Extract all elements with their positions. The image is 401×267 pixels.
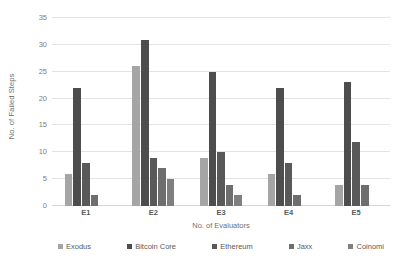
legend-swatch-icon [212,244,217,249]
bar-bitcoin-core-e5[interactable] [344,82,352,206]
bar-group-inner [268,18,310,206]
bar-group-e5 [322,18,390,206]
bar-group-inner [200,18,242,206]
bar-coinomi-e2[interactable] [167,179,175,206]
bar-exodus-e4[interactable] [268,174,276,206]
legend-label: Coinomi [356,242,384,251]
bar-chart: No. of Failed Steps 05101520253035 E1E2E… [0,0,401,267]
bar-group-inner [335,18,377,206]
legend-swatch-icon [58,244,63,249]
y-axis-title-text: No. of Failed Steps [8,73,17,139]
x-axis-tick-labels: E1E2E3E4E5 [52,208,390,222]
bar-group-inner [65,18,107,206]
bar-ethereum-e5[interactable] [352,142,360,206]
x-axis-tick-label-e5: E5 [322,208,390,222]
bar-group-e4 [255,18,323,206]
y-axis-tick-label: 10 [39,147,47,156]
x-axis-tick-label-e4: E4 [255,208,323,222]
x-axis-tick-label-e1: E1 [52,208,120,222]
y-axis-tick-label: 20 [39,93,47,102]
bar-jaxx-e5[interactable] [361,185,369,206]
y-axis-tick-label: 0 [43,201,47,210]
plot-area: 05101520253035 [52,18,390,206]
bar-ethereum-e2[interactable] [150,158,158,206]
y-axis-tick-label: 30 [39,39,47,48]
y-axis-tick-label: 5 [43,174,47,183]
bar-group-e1 [52,18,120,206]
bar-bitcoin-core-e2[interactable] [141,40,149,207]
bar-jaxx-e4[interactable] [293,195,301,206]
bar-ethereum-e4[interactable] [285,163,293,206]
x-axis-tick-label-e2: E2 [120,208,188,222]
x-axis-tick-label-e3: E3 [187,208,255,222]
bar-group-e3 [187,18,255,206]
legend-item-ethereum[interactable]: Ethereum [212,242,253,251]
bar-bitcoin-core-e4[interactable] [276,88,284,206]
bar-jaxx-e2[interactable] [158,168,166,206]
y-axis-tick-label: 25 [39,66,47,75]
bar-coinomi-e3[interactable] [234,195,242,206]
legend-swatch-icon [289,244,294,249]
legend-swatch-icon [348,244,353,249]
legend-label: Exodus [66,242,91,251]
legend-label: Ethereum [220,242,253,251]
y-axis-tick-label: 15 [39,120,47,129]
y-axis-title: No. of Failed Steps [0,0,24,212]
bar-exodus-e2[interactable] [132,66,140,206]
legend-label: Jaxx [297,242,312,251]
bar-exodus-e3[interactable] [200,158,208,206]
bar-bitcoin-core-e3[interactable] [209,72,217,206]
bar-exodus-e5[interactable] [335,185,343,206]
bar-jaxx-e1[interactable] [91,195,99,206]
legend-item-jaxx[interactable]: Jaxx [289,242,312,251]
bar-jaxx-e3[interactable] [226,185,234,206]
bar-ethereum-e3[interactable] [217,152,225,206]
legend-item-coinomi[interactable]: Coinomi [348,242,384,251]
y-axis-tick-label: 35 [39,13,47,22]
bar-ethereum-e1[interactable] [82,163,90,206]
chart-legend: ExodusBitcoin CoreEthereumJaxxCoinomi [52,242,390,251]
legend-swatch-icon [127,244,132,249]
bars-layer [52,18,390,206]
x-axis-title: No. of Evaluators [52,221,390,230]
bar-group-e2 [120,18,188,206]
legend-label: Bitcoin Core [135,242,176,251]
bar-bitcoin-core-e1[interactable] [73,88,81,206]
legend-item-bitcoin-core[interactable]: Bitcoin Core [127,242,176,251]
bar-group-inner [132,18,174,206]
bar-exodus-e1[interactable] [65,174,73,206]
legend-item-exodus[interactable]: Exodus [58,242,91,251]
